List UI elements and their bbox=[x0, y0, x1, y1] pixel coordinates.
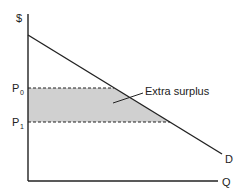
x-axis-label: Q bbox=[222, 176, 231, 188]
demand-label: D bbox=[225, 153, 233, 165]
y-axis-label: $ bbox=[16, 12, 22, 24]
p0-label: P bbox=[12, 82, 19, 94]
p0-subscript: 0 bbox=[20, 89, 24, 96]
p1-label: P bbox=[12, 116, 19, 128]
surplus-diagram: $ Q D P 0 P 1 Extra surplus bbox=[0, 0, 243, 194]
p1-subscript: 1 bbox=[20, 123, 24, 130]
extra-surplus-label: Extra surplus bbox=[145, 85, 210, 97]
